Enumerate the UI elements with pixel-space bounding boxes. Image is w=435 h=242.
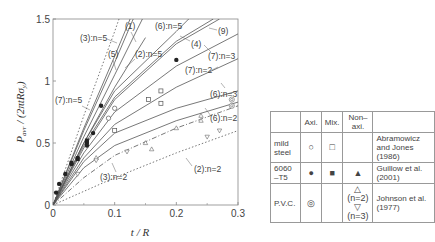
circle-filled-marker	[99, 104, 103, 108]
plot-frame	[53, 19, 238, 205]
circle-open-icon: ○	[301, 133, 321, 163]
curve-label: (9)	[218, 26, 229, 36]
empty-cell	[321, 184, 343, 223]
curve-label: (2):n=2	[194, 164, 221, 174]
triangle-down-open-marker	[75, 172, 79, 176]
legend-row-6060-t5: 6060 –T5 ● ■ ▲ Guillow et al. (2001)	[271, 163, 435, 184]
triangle-down-label: ▽ (n=3)	[346, 203, 369, 221]
curve-label: (6):n=5	[155, 21, 182, 31]
triangle-filled-icon: ▲	[343, 163, 373, 184]
x-tick-label: 0.1	[108, 208, 122, 219]
curve	[53, 19, 142, 205]
x-tick-label: 0.2	[169, 208, 183, 219]
curves	[53, 19, 238, 205]
curve-label: (2):n=5	[135, 49, 162, 59]
source-label: Johnson et al. (1977)	[373, 184, 435, 223]
triangle-up-open-marker	[149, 147, 153, 151]
y-tick-label: 1.5	[36, 14, 50, 25]
square-open-marker	[147, 98, 151, 102]
circle-filled-marker	[54, 190, 58, 194]
y-tick-label: 0	[44, 200, 50, 211]
triangle-down-open-marker	[217, 129, 221, 133]
y-tick-label: 1	[44, 76, 50, 87]
empty-cell	[343, 133, 373, 163]
y-axis-title: Pavr / (2πtRσy)	[14, 81, 28, 144]
square-filled-marker	[70, 161, 74, 165]
curve-label: (7):n=2	[185, 65, 212, 75]
x-axis-title: t / R	[131, 226, 150, 238]
square-filled-icon: ■	[321, 163, 343, 184]
circle-filled-marker	[57, 182, 61, 186]
circle-filled-marker	[63, 172, 67, 176]
curve-label: (6):n=3	[210, 89, 237, 99]
square-open-marker	[113, 129, 117, 133]
y-tick-label: 0.5	[36, 138, 50, 149]
triangle-open-icons: △ (n=2) ▽ (n=3)	[343, 184, 373, 223]
legend-row-mild-steel: mild steel ○ □ Abramowicz and Jones (198…	[271, 133, 435, 163]
chart-plot: (1)(3):n=5(5)(2):n=5(6):n=5(4)(9)(7):n=5…	[0, 0, 270, 242]
curve-label: (3):n=5	[80, 33, 107, 43]
curve-label: (7):n=3	[208, 51, 235, 61]
material-label: 6060 –T5	[271, 163, 301, 184]
curve-label: (1)	[125, 21, 136, 31]
circle-filled-marker	[85, 143, 89, 147]
legend-header-empty	[271, 112, 301, 133]
curve-label: (4)	[191, 39, 202, 49]
axis-ticks	[53, 19, 238, 205]
circle-filled-marker	[91, 131, 95, 135]
circle-filled-icon: ●	[301, 163, 321, 184]
triangle-down-open-marker	[125, 150, 129, 154]
legend-header-mix: Mix.	[321, 112, 343, 133]
triangle-down-open-marker	[94, 159, 98, 163]
curve-label: (7):n=5	[55, 95, 82, 105]
circle-open-marker	[112, 106, 116, 110]
data-markers	[54, 58, 235, 195]
x-tick-label: 0.3	[231, 208, 245, 219]
double-circle-icon: ◎	[301, 184, 321, 223]
triangle-up-label: △ (n=2)	[346, 185, 369, 203]
curve	[53, 91, 238, 205]
curve-label: (5)	[108, 49, 119, 59]
x-tick-label: 0	[50, 208, 56, 219]
curve	[53, 19, 213, 205]
legend-header-axi: Axi.	[301, 112, 321, 133]
curve-label: (3):n=2	[100, 172, 127, 182]
material-label: P.V.C.	[271, 184, 301, 223]
square-open-marker	[159, 101, 163, 105]
legend-row-pvc: P.V.C. ◎ △ (n=2) ▽ (n=3) Johnson et al. …	[271, 184, 435, 223]
square-filled-marker	[85, 139, 89, 143]
square-open-icon: □	[321, 133, 343, 163]
material-label: mild steel	[271, 133, 301, 163]
double-circle-marker	[229, 103, 234, 108]
curve-labels: (1)(3):n=5(5)(2):n=5(6):n=5(4)(9)(7):n=5…	[55, 21, 237, 182]
triangle-up-open-marker	[174, 126, 178, 130]
legend-header-nonaxi: Non–axi.	[343, 112, 373, 133]
circle-open-marker	[106, 116, 110, 120]
legend-table: Axi. Mix. Non–axi. mild steel ○ □ Abramo…	[270, 111, 435, 223]
source-label: Abramowicz and Jones (1986)	[373, 133, 435, 163]
legend-header-source	[373, 112, 435, 133]
triangle-down-open-marker	[205, 135, 209, 139]
curve	[53, 59, 238, 205]
source-label: Guillow et al. (2001)	[373, 163, 435, 184]
square-open-marker	[159, 89, 163, 93]
curve-label: (6):n=2	[210, 113, 237, 123]
square-filled-marker	[76, 157, 80, 161]
circle-filled-marker	[174, 58, 178, 62]
